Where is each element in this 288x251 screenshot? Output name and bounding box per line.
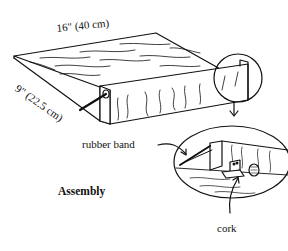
rubber-band-label: rubber band bbox=[82, 138, 135, 150]
assembly-caption: Assembly bbox=[58, 185, 105, 197]
cork-label: cork bbox=[217, 222, 237, 234]
assembly-illustration bbox=[0, 0, 288, 251]
